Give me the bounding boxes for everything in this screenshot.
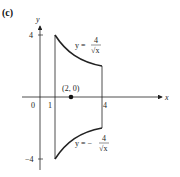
- x-tick-1: 1: [48, 101, 52, 110]
- panel-label: (c): [2, 7, 13, 19]
- svg-text:√x: √x: [99, 144, 107, 153]
- x-tick-0: 0: [31, 101, 35, 110]
- point-label: (2, 0): [62, 84, 80, 93]
- x-tick-4: 4: [103, 101, 107, 110]
- point-2-0: [69, 95, 74, 100]
- svg-text:4: 4: [94, 36, 98, 45]
- y-axis-label: y: [35, 15, 40, 24]
- svg-text:4: 4: [102, 134, 106, 143]
- svg-text:y =: y =: [75, 41, 86, 50]
- svg-text:y = −: y = −: [75, 139, 93, 148]
- svg-text:√x: √x: [91, 46, 99, 55]
- x-axis-label: x: [164, 93, 169, 102]
- y-tick-4: 4: [29, 31, 33, 40]
- upper-equation: y = 4 √x: [75, 36, 101, 55]
- region-diagram: (c) y x 4 −4 0 1 4 (2, 0) y = 4 √x y = −…: [0, 0, 180, 177]
- lower-equation: y = − 4 √x: [75, 134, 109, 153]
- y-tick-neg4: −4: [25, 155, 34, 164]
